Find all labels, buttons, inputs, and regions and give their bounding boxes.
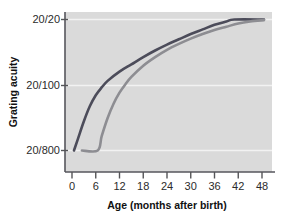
plot-area-background [65, 12, 272, 172]
x-tick-label-36: 36 [208, 180, 220, 192]
x-tick-label-0: 0 [69, 180, 75, 192]
x-axis-tick-marks [72, 172, 262, 179]
x-tick-label-18: 18 [137, 180, 149, 192]
x-tick-label-48: 48 [256, 180, 268, 192]
grating-acuity-line-chart: 20/20 20/100 20/800 0 6 12 18 24 30 36 4… [0, 0, 285, 220]
y-tick-label-20-100: 20/100 [26, 79, 60, 91]
y-tick-label-20-20: 20/20 [32, 13, 60, 25]
x-tick-label-12: 12 [113, 180, 125, 192]
x-tick-label-6: 6 [93, 180, 99, 192]
x-axis-title: Age (months after birth) [107, 199, 227, 211]
y-axis-title: Grating acuity [7, 57, 19, 128]
x-tick-label-24: 24 [161, 180, 173, 192]
chart-figure: 20/20 20/100 20/800 0 6 12 18 24 30 36 4… [0, 0, 285, 220]
y-tick-label-20-800: 20/800 [26, 144, 60, 156]
x-tick-label-30: 30 [185, 180, 197, 192]
x-tick-label-42: 42 [232, 180, 244, 192]
